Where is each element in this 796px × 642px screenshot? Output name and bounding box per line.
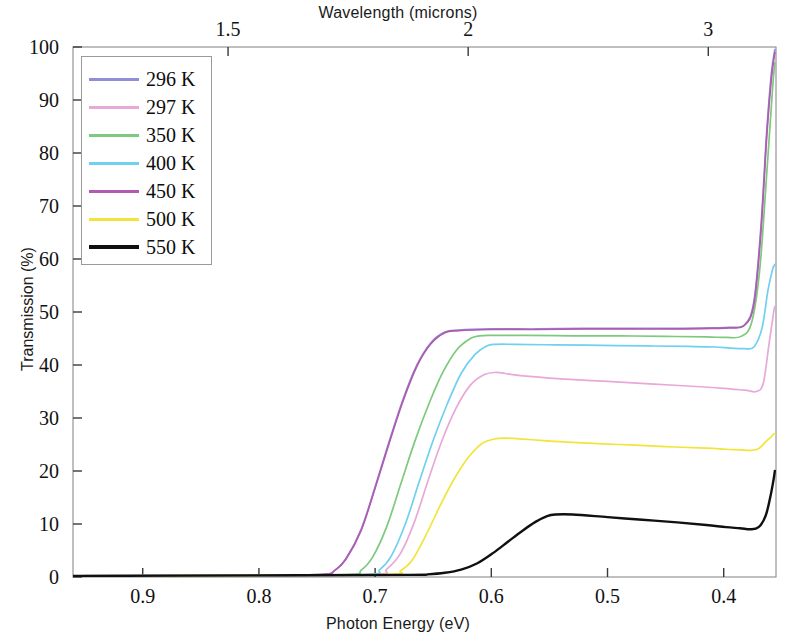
y-tick-label: 0 (0, 566, 59, 589)
y-tick-label: 40 (0, 354, 59, 377)
legend-label: 350 K (146, 125, 195, 145)
legend-item: 350 K (82, 122, 213, 148)
series-line-297-k (73, 307, 775, 576)
top-axis-title: Wavelength (microns) (0, 4, 796, 22)
legend-swatch-line-icon (89, 134, 139, 137)
legend-label: 500 K (146, 209, 195, 229)
legend-swatch-line-icon (89, 78, 139, 81)
series-line-550-k (73, 471, 775, 576)
transmission-spectrum-figure: Wavelength (microns) Photon Energy (eV) … (0, 0, 796, 642)
legend-item: 296 K (82, 66, 213, 92)
x-tick-label: 0.7 (363, 585, 388, 608)
y-tick-label: 30 (0, 407, 59, 430)
y-tick-label: 70 (0, 195, 59, 218)
y-tick-label: 60 (0, 248, 59, 271)
legend-item: 450 K (82, 178, 213, 204)
legend-item: 550 K (82, 234, 213, 260)
bottom-axis-title: Photon Energy (eV) (0, 615, 796, 633)
legend-label: 550 K (146, 237, 195, 257)
legend-item: 400 K (82, 150, 213, 176)
y-tick-label: 90 (0, 89, 59, 112)
legend-label: 400 K (146, 153, 195, 173)
wavelength-tick-label: 1.5 (216, 18, 241, 41)
wavelength-tick-label: 2 (463, 18, 473, 41)
y-tick-label: 80 (0, 142, 59, 165)
legend: 296 K297 K350 K400 K450 K500 K550 K (81, 56, 212, 265)
legend-swatch-line-icon (89, 245, 139, 249)
series-line-500-k (73, 434, 775, 576)
x-tick-label: 0.8 (246, 585, 271, 608)
legend-swatch-line-icon (89, 218, 139, 221)
y-tick-label: 10 (0, 513, 59, 536)
y-tick-label: 20 (0, 460, 59, 483)
y-tick-label: 50 (0, 301, 59, 324)
legend-item: 297 K (82, 94, 213, 120)
y-tick-label: 100 (0, 36, 59, 59)
legend-label: 297 K (146, 97, 195, 117)
x-tick-label: 0.9 (130, 585, 155, 608)
legend-swatch-line-icon (89, 106, 139, 109)
x-tick-label: 0.5 (595, 585, 620, 608)
series-line-400-k (73, 264, 775, 576)
wavelength-tick-label: 3 (703, 18, 713, 41)
legend-swatch-line-icon (89, 190, 139, 193)
legend-item: 500 K (82, 206, 213, 232)
x-tick-label: 0.4 (711, 585, 736, 608)
x-tick-label: 0.6 (479, 585, 504, 608)
legend-label: 450 K (146, 181, 195, 201)
legend-swatch-line-icon (89, 162, 139, 165)
legend-label: 296 K (146, 69, 195, 89)
